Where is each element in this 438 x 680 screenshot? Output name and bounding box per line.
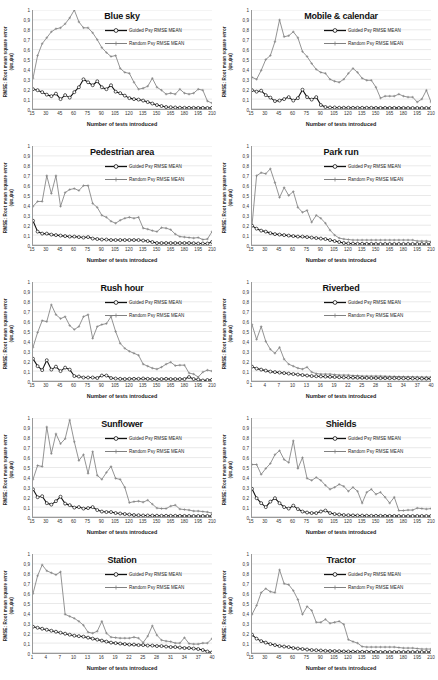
x-tick-label: 45 <box>57 111 62 116</box>
x-tick-label: 165 <box>386 655 394 660</box>
x-tick-label: 40 <box>428 383 433 388</box>
x-tick-label: 135 <box>139 111 147 116</box>
x-tick-label: 45 <box>276 519 281 524</box>
legend-item-random: Random Psy RMSE MEAN <box>324 37 436 50</box>
y-tick-label: 0,9 <box>24 154 30 159</box>
y-axis-label: RMSE: Root mean square error(ψx,ψu) <box>221 144 233 252</box>
y-axis-label-line1: RMSE: Root mean square error <box>221 571 227 642</box>
x-tick-label: 165 <box>386 247 394 252</box>
x-tick-label: 150 <box>153 383 161 388</box>
chart-legend: Guided Psy RMSE MEANRandom Psy RMSE MEAN <box>105 296 217 322</box>
chart-panel: RMSE: Root mean square error(ψx,ψu)00,10… <box>0 272 219 408</box>
legend-key-random-icon <box>105 448 127 455</box>
x-axis-ticks: 153045607590105120135150165180195210 <box>32 247 212 256</box>
x-tick-label: 45 <box>57 383 62 388</box>
x-tick-label: 75 <box>304 655 309 660</box>
legend-label: Random Psy RMSE MEAN <box>348 177 403 182</box>
x-tick-label: 1 <box>250 383 253 388</box>
chart-panel: RMSE: Root mean square error(ψx,ψu)00,10… <box>0 136 219 272</box>
chart-legend: Guided Psy RMSE MEANRandom Psy RMSE MEAN <box>324 568 436 594</box>
legend-item-guided: Guided Psy RMSE MEAN <box>105 296 217 309</box>
x-tick-label: 16 <box>318 383 323 388</box>
legend-label: Random Psy RMSE MEAN <box>129 41 184 46</box>
x-tick-label: 210 <box>208 111 216 116</box>
x-tick-label: 7 <box>277 383 280 388</box>
legend-label: Random Psy RMSE MEAN <box>129 585 184 590</box>
y-tick-label: 0,9 <box>24 426 30 431</box>
y-tick-label: 0,9 <box>24 18 30 23</box>
legend-label: Random Psy RMSE MEAN <box>348 41 403 46</box>
x-tick-label: 60 <box>71 247 76 252</box>
chart-legend: Guided Psy RMSE MEANRandom Psy RMSE MEAN <box>324 24 436 50</box>
x-tick-label: 195 <box>413 655 421 660</box>
x-tick-label: 180 <box>180 247 188 252</box>
legend-label: Guided Psy RMSE MEAN <box>348 28 401 33</box>
x-tick-label: 180 <box>399 519 407 524</box>
y-tick-label: 0,3 <box>243 214 249 219</box>
y-tick-label: 0,6 <box>243 184 249 189</box>
y-tick-label: 0,7 <box>243 446 249 451</box>
x-tick-label: 90 <box>318 247 323 252</box>
legend-label: Guided Psy RMSE MEAN <box>348 300 401 305</box>
y-tick-label: 0,3 <box>24 486 30 491</box>
y-axis-label-line2: (ψx,ψu) <box>227 299 233 370</box>
x-tick-label: 15 <box>29 519 34 524</box>
x-tick-label: 150 <box>372 111 380 116</box>
x-tick-label: 150 <box>372 655 380 660</box>
y-tick-label: 0,6 <box>243 456 249 461</box>
x-tick-label: 180 <box>180 383 188 388</box>
x-tick-label: 13 <box>85 655 90 660</box>
x-tick-label: 4 <box>45 655 48 660</box>
legend-item-guided: Guided Psy RMSE MEAN <box>324 296 436 309</box>
x-tick-label: 105 <box>330 519 338 524</box>
y-axis-ticks: 00,10,20,30,40,50,60,70,80,91 <box>14 554 31 654</box>
y-tick-label: 0,8 <box>24 436 30 441</box>
y-tick-label: 0,4 <box>24 476 30 481</box>
y-tick-label: 0,5 <box>243 330 249 335</box>
y-tick-label: 0,4 <box>243 204 249 209</box>
x-tick-label: 37 <box>415 383 420 388</box>
x-tick-label: 165 <box>167 383 175 388</box>
x-tick-label: 135 <box>139 383 147 388</box>
y-tick-label: 0,2 <box>243 224 249 229</box>
x-axis-label: Number of tests introduced <box>251 121 431 127</box>
y-axis-label-line2: (ψx,ψu) <box>227 163 233 234</box>
y-axis-label: RMSE: Root mean square error(ψx,ψu) <box>2 280 14 388</box>
legend-label: Guided Psy RMSE MEAN <box>348 164 401 169</box>
y-axis-label-line2: (ψx,ψu) <box>8 299 14 370</box>
x-axis-label: Number of tests introduced <box>32 257 212 263</box>
x-tick-label: 45 <box>276 247 281 252</box>
x-tick-label: 90 <box>99 111 104 116</box>
y-tick-label: 0,8 <box>243 28 249 33</box>
legend-key-guided-icon <box>324 27 346 34</box>
legend-item-guided: Guided Psy RMSE MEAN <box>324 24 436 37</box>
legend-key-guided-icon <box>324 299 346 306</box>
y-axis-label-line2: (ψx,ψu) <box>8 27 14 98</box>
x-tick-label: 210 <box>208 519 216 524</box>
x-axis-label: Number of tests introduced <box>251 665 431 671</box>
legend-label: Random Psy RMSE MEAN <box>129 177 184 182</box>
x-tick-label: 210 <box>427 519 435 524</box>
chart-legend: Guided Psy RMSE MEANRandom Psy RMSE MEAN <box>105 160 217 186</box>
y-axis-label-line2: (ψx,ψu) <box>227 435 233 506</box>
y-tick-label: 0,1 <box>243 234 249 239</box>
x-tick-label: 120 <box>125 383 133 388</box>
y-tick-label: 0,6 <box>24 320 30 325</box>
y-tick-label: 0 <box>27 652 30 657</box>
x-tick-label: 105 <box>111 519 119 524</box>
x-tick-label: 37 <box>196 655 201 660</box>
y-tick-label: 0,1 <box>243 98 249 103</box>
y-tick-label: 1 <box>27 416 30 421</box>
chart-panel: RMSE: Root mean square error(ψx,ψu)00,10… <box>0 544 219 680</box>
y-axis-label: RMSE: Root mean square error(ψx,ψu) <box>221 8 233 116</box>
y-tick-label: 0 <box>246 380 249 385</box>
x-tick-label: 90 <box>318 519 323 524</box>
y-tick-label: 0,1 <box>243 642 249 647</box>
x-tick-label: 60 <box>290 655 295 660</box>
legend-label: Random Psy RMSE MEAN <box>348 449 403 454</box>
y-axis-label: RMSE: Root mean square error(ψx,ψu) <box>2 552 14 660</box>
y-axis-label-line1: RMSE: Root mean square error <box>2 435 8 506</box>
y-tick-label: 0,1 <box>243 506 249 511</box>
legend-key-random-icon <box>105 176 127 183</box>
y-tick-label: 0,1 <box>24 506 30 511</box>
